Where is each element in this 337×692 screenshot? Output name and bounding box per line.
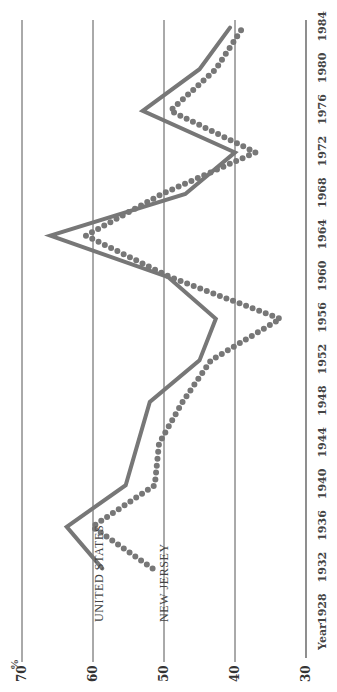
y-tick-label: 30: [299, 665, 313, 682]
x-axis-title: Year: [316, 623, 329, 651]
series: [50, 28, 280, 569]
legend-label-united-states: UNITED STATES: [92, 525, 106, 622]
legend-label-new-jersey: NEW JERSEY: [157, 543, 171, 622]
x-tick-label: 1928: [316, 593, 329, 624]
x-tick-label: 1972: [316, 136, 329, 167]
y-tick-label: 50: [157, 665, 171, 682]
x-tick-label: 1952: [316, 344, 329, 375]
series-line-united-states: [50, 28, 235, 569]
x-tick-label: 1956: [316, 302, 329, 333]
x-tick-label: 1940: [316, 468, 329, 499]
line-chart: 3040506070 19281932193619401944194819521…: [0, 0, 337, 692]
x-tick-label: 1932: [316, 552, 329, 583]
x-tick-label: 1960: [316, 260, 329, 291]
x-tick-label: 1968: [316, 177, 329, 208]
y-axis-unit-label: %: [8, 659, 20, 670]
series-line-new-jersey: [86, 28, 281, 569]
x-tick-label: 1936: [316, 510, 329, 541]
chart: 3040506070 19281932193619401944194819521…: [0, 0, 337, 692]
y-tick-label: 60: [86, 665, 100, 682]
x-tick-label: 1964: [316, 219, 329, 250]
x-tick-label: 1980: [316, 52, 329, 83]
x-tick-label: 1948: [316, 385, 329, 416]
y-axis-ticks: 3040506070: [15, 665, 313, 682]
y-tick-label: 40: [228, 665, 242, 682]
x-tick-label: 1976: [316, 94, 329, 125]
x-tick-label: 1944: [316, 427, 329, 458]
x-axis-ticks: 1928193219361940194419481952195619601964…: [316, 11, 329, 624]
x-tick-label: 1984: [316, 11, 329, 42]
